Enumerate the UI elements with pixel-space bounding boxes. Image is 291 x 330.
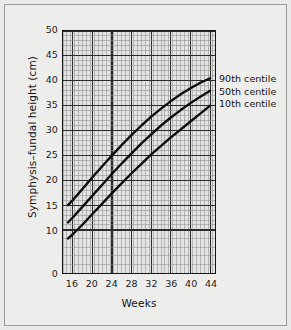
y-axis-title: Symphysis–fundal height (cm) xyxy=(26,37,38,237)
chart-figure: 0101520253035404550 1620242832364044 Sym… xyxy=(0,0,291,330)
centile-curves xyxy=(63,31,215,273)
centile-curve xyxy=(68,106,210,239)
chart-legend: 90th centile 50th centile 10th centile xyxy=(219,73,289,111)
y-tick-label: 0 xyxy=(34,269,58,279)
y-tick-label: 50 xyxy=(34,25,58,35)
plot-area xyxy=(62,30,216,274)
x-axis-ticks: 1620242832364044 xyxy=(0,279,291,293)
centile-curve xyxy=(68,91,210,223)
legend-entry-50th: 50th centile xyxy=(219,86,289,99)
x-axis-title: Weeks xyxy=(62,297,216,309)
centile-curve xyxy=(68,78,210,205)
x-tick-label: 44 xyxy=(198,279,224,289)
legend-entry-10th: 10th centile xyxy=(219,98,289,111)
legend-entry-90th: 90th centile xyxy=(219,73,289,86)
